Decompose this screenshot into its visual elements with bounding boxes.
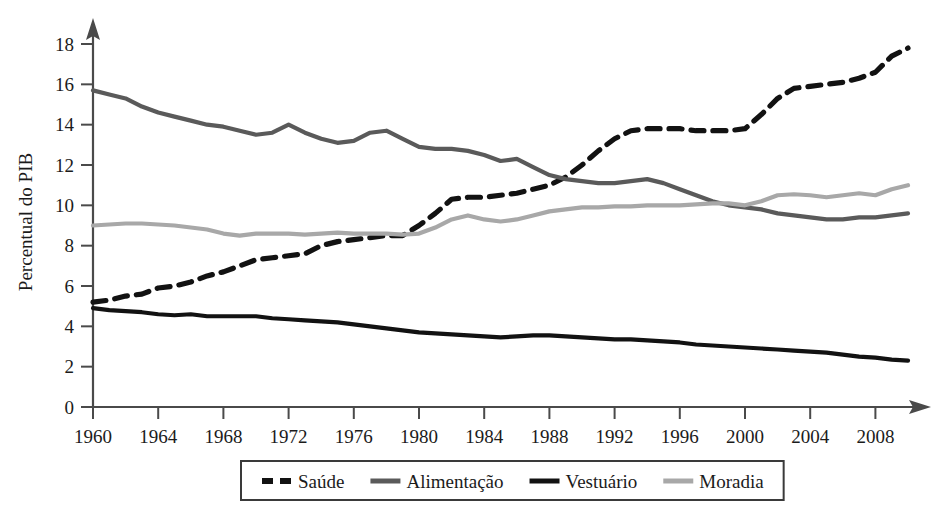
x-tick-label: 1996 (661, 426, 699, 447)
y-tick-label: 8 (65, 235, 75, 256)
x-tick-label: 2000 (726, 426, 764, 447)
series-line-vesturio (93, 308, 908, 360)
chart-container: Percentual do PIB 024681012141618 196019… (0, 0, 951, 519)
y-tick-label: 14 (55, 114, 75, 135)
x-tick-label: 2004 (791, 426, 830, 447)
x-axis-ticks: 1960196419681972197619801984198819921996… (74, 407, 894, 447)
x-tick-label: 1976 (335, 426, 373, 447)
x-tick-label: 1960 (74, 426, 112, 447)
line-chart: Percentual do PIB 024681012141618 196019… (0, 0, 951, 519)
y-tick-label: 10 (55, 195, 74, 216)
x-tick-label: 1964 (139, 426, 178, 447)
x-tick-label: 1972 (270, 426, 308, 447)
y-tick-label: 4 (65, 316, 75, 337)
series-line-sade (93, 48, 908, 302)
x-tick-label: 1988 (530, 426, 568, 447)
y-tick-label: 18 (55, 34, 74, 55)
chart-legend: SaúdeAlimentaçãoVestuárioMoradia (241, 461, 784, 500)
y-tick-label: 12 (55, 155, 74, 176)
y-tick-label: 0 (65, 397, 75, 418)
legend-label-vesturio: Vestuário (566, 471, 638, 492)
y-axis-title: Percentual do PIB (15, 153, 36, 291)
y-axis-ticks: 024681012141618 (55, 34, 93, 418)
x-tick-label: 1980 (400, 426, 438, 447)
legend-label-alimentao: Alimentação (406, 471, 503, 492)
x-tick-label: 1968 (204, 426, 242, 447)
x-tick-label: 2008 (856, 426, 894, 447)
y-tick-label: 2 (65, 356, 75, 377)
legend-label-sade: Saúde (298, 471, 344, 492)
legend-label-moradia: Moradia (699, 471, 764, 492)
x-tick-label: 1984 (465, 426, 504, 447)
y-tick-label: 16 (55, 74, 74, 95)
series-layer (93, 48, 908, 361)
x-tick-label: 1992 (596, 426, 634, 447)
y-tick-label: 6 (65, 276, 75, 297)
series-line-alimentao (93, 90, 908, 219)
